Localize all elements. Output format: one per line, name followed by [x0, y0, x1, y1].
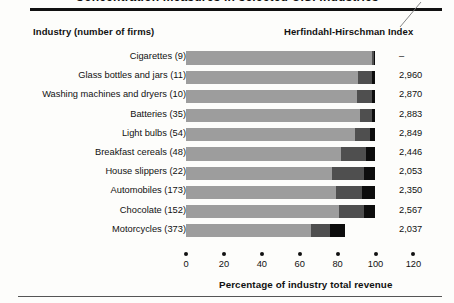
bar-segment-s2	[355, 128, 370, 141]
row-label: Light bulbs (54)	[122, 128, 186, 138]
stacked-bar	[186, 90, 375, 103]
row-label: Glass bottles and jars (11)	[78, 70, 186, 80]
stacked-bar	[186, 128, 375, 141]
chart-row: Glass bottles and jars (11)2,960	[0, 68, 454, 87]
stacked-bar	[186, 51, 375, 64]
axis-tick-label: 80	[332, 259, 342, 269]
bar-segment-s2	[360, 109, 371, 122]
stacked-bar	[186, 167, 375, 180]
chart-row: Breakfast cereals (48)2,446	[0, 145, 454, 164]
row-label: Chocolate (152)	[120, 205, 186, 215]
row-label: House slippers (22)	[105, 166, 186, 176]
bar-segment-s1	[186, 205, 339, 218]
bottom-rule	[18, 296, 442, 297]
row-label: Washing machines and dryers (10)	[42, 89, 186, 99]
chart-row: Light bulbs (54)2,849	[0, 126, 454, 145]
chart-rows: Cigarettes (9)–Glass bottles and jars (1…	[0, 49, 454, 241]
bar-segment-s1	[186, 109, 360, 122]
bar-segment-s1	[186, 224, 311, 237]
bar-segment-s1	[186, 147, 341, 160]
hhi-value: 2,037	[399, 224, 422, 234]
axis-tick-label: 100	[368, 259, 384, 269]
bar-segment-s3	[362, 186, 375, 199]
axis-tick	[184, 252, 188, 256]
bar-segment-s1	[186, 167, 332, 180]
axis-tick-label: 60	[295, 259, 305, 269]
bar-segment-s3	[372, 90, 376, 103]
axis-tick-label: 40	[257, 259, 267, 269]
chart-row: Washing machines and dryers (10)2,870	[0, 87, 454, 106]
axis-tick-label: 0	[183, 259, 188, 269]
chart-row: Batteries (35)2,883	[0, 107, 454, 126]
hhi-value: 2,849	[399, 128, 422, 138]
bar-segment-s3	[370, 128, 376, 141]
bar-segment-s3	[364, 167, 375, 180]
row-label: Breakfast cereals (48)	[95, 147, 186, 157]
chart-row: Cigarettes (9)–	[0, 49, 454, 68]
axis-tick-label: 120	[406, 259, 422, 269]
x-axis: 020406080100120	[0, 252, 454, 282]
bar-segment-s2	[332, 167, 364, 180]
axis-tick-label: 20	[219, 259, 229, 269]
axis-tick	[298, 252, 302, 256]
chart-figure: Concentration measures in selected U.S. …	[0, 0, 454, 303]
axis-tick	[260, 252, 264, 256]
hhi-value: 2,870	[399, 89, 422, 99]
column-header-industry: Industry (number of firms)	[33, 26, 154, 37]
row-label: Automobiles (173)	[111, 185, 186, 195]
bar-segment-s3	[330, 224, 345, 237]
bar-segment-s1	[186, 90, 357, 103]
row-label: Batteries (35)	[130, 109, 186, 119]
hhi-value: 2,446	[399, 147, 422, 157]
chart-row: Motorcycles (373)2,037	[0, 222, 454, 241]
hhi-value: 2,960	[399, 70, 422, 80]
stacked-bar	[186, 109, 375, 122]
chart-row: Chocolate (152)2,567	[0, 203, 454, 222]
hhi-value: 2,883	[399, 109, 422, 119]
bar-segment-s2	[336, 186, 363, 199]
row-label: Cigarettes (9)	[130, 51, 186, 61]
stacked-bar	[186, 205, 375, 218]
stacked-bar	[186, 71, 375, 84]
hhi-value: 2,567	[399, 205, 422, 215]
axis-tick	[411, 252, 415, 256]
hhi-value: –	[399, 51, 404, 61]
bar-segment-s3	[366, 147, 375, 160]
bar-segment-s3	[374, 51, 376, 64]
bar-segment-s1	[186, 51, 372, 64]
chart-title-clipped: Concentration measures in selected U.S. …	[0, 0, 454, 3]
axis-tick	[222, 252, 226, 256]
axis-tick	[336, 252, 340, 256]
axis-tick	[374, 252, 378, 256]
stacked-bar	[186, 147, 375, 160]
top-rule	[30, 8, 442, 11]
bar-segment-s2	[339, 205, 364, 218]
bar-segment-s1	[186, 128, 355, 141]
bar-segment-s2	[357, 90, 372, 103]
column-header-hhi: Herfindahl-Hirschman Index	[284, 26, 413, 37]
hhi-value: 2,350	[399, 185, 422, 195]
stacked-bar	[186, 224, 345, 237]
bar-segment-s3	[364, 205, 375, 218]
bar-segment-s1	[186, 71, 358, 84]
chart-row: Automobiles (173)2,350	[0, 183, 454, 202]
stacked-bar	[186, 186, 375, 199]
x-axis-title: Percentage of industry total revenue	[219, 279, 392, 290]
bar-segment-s2	[358, 71, 371, 84]
bar-segment-s3	[372, 109, 376, 122]
bar-segment-s2	[311, 224, 330, 237]
chart-row: House slippers (22)2,053	[0, 164, 454, 183]
chart-title-text: Concentration measures in selected U.S. …	[0, 0, 454, 3]
bar-segment-s1	[186, 186, 336, 199]
leader-line	[398, 2, 422, 28]
hhi-value: 2,053	[399, 166, 422, 176]
bar-segment-s3	[372, 71, 376, 84]
row-label: Motorcycles (373)	[112, 224, 186, 234]
bar-segment-s2	[341, 147, 366, 160]
